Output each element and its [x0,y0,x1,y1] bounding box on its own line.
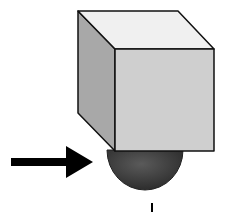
cube [78,11,214,151]
tick-mark [151,203,153,212]
diagram-canvas [0,0,225,215]
hemisphere [107,150,183,190]
arrow-right-icon [11,146,93,178]
cube-front-face [115,49,214,151]
